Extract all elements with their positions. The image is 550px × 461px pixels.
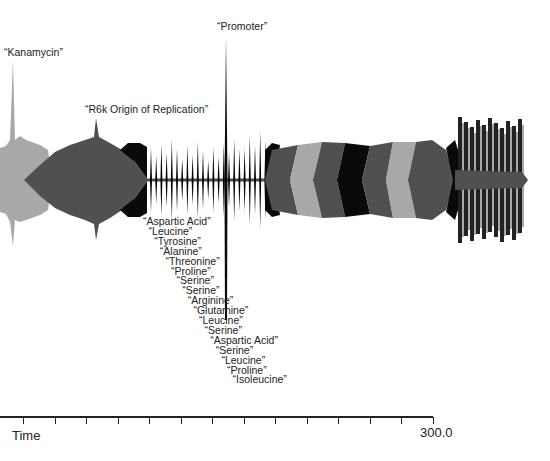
x-axis-tick: [118, 417, 119, 424]
segment-kanamycin: [0, 60, 52, 246]
promoter-line: [225, 36, 228, 320]
x-axis-tick: [212, 417, 213, 424]
annotation-promoter: “Promoter”: [217, 20, 267, 32]
x-axis-tick: [86, 417, 87, 424]
x-axis-end-value: 300.0: [420, 425, 453, 440]
sequence-label: “Isoleucine”: [233, 373, 287, 385]
x-axis: [0, 416, 433, 418]
x-axis-tick: [433, 417, 434, 424]
chevron-group: [265, 140, 458, 220]
waveform: [0, 0, 550, 461]
annotation-kanamycin: “Kanamycin”: [4, 46, 63, 58]
x-axis-tick: [338, 417, 339, 424]
x-axis-tick: [370, 417, 371, 424]
annotation-r6k: “R6k Origin of Replication”: [85, 103, 208, 115]
segment-r6k-origin: [24, 118, 148, 240]
x-axis-tick: [23, 417, 24, 424]
x-axis-label: Time: [12, 428, 40, 443]
spike-group: [150, 132, 266, 229]
x-axis-tick: [244, 417, 245, 424]
x-axis-tick: [307, 417, 308, 424]
x-axis-tick: [275, 417, 276, 424]
x-axis-tick: [181, 417, 182, 424]
tail: [455, 170, 528, 190]
x-axis-tick: [55, 417, 56, 424]
x-axis-tick: [401, 417, 402, 424]
x-axis-tick: [149, 417, 150, 424]
